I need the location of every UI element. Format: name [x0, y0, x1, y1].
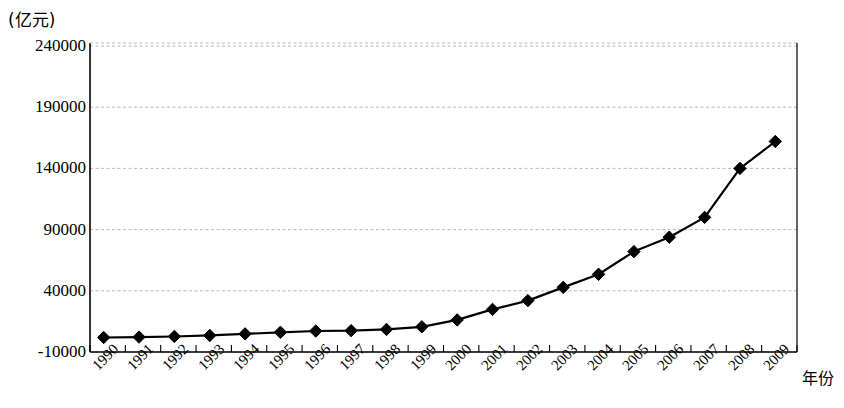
data-point-marker	[310, 325, 322, 337]
data-point-marker	[628, 245, 640, 257]
data-line	[104, 142, 776, 338]
data-point-marker	[239, 328, 251, 340]
data-point-marker	[451, 314, 463, 326]
data-point-marker	[345, 324, 357, 336]
data-point-marker	[557, 281, 569, 293]
data-point-marker	[663, 231, 675, 243]
data-point-marker	[274, 326, 286, 338]
data-point-marker	[592, 268, 604, 280]
x-axis-title: 年份	[802, 365, 834, 389]
line-chart: (亿元) -100004000090000140000190000240000 …	[0, 0, 844, 408]
data-point-marker	[204, 329, 216, 341]
data-point-marker	[522, 294, 534, 306]
data-point-marker	[486, 303, 498, 315]
data-point-marker	[416, 321, 428, 333]
data-point-marker	[380, 323, 392, 335]
